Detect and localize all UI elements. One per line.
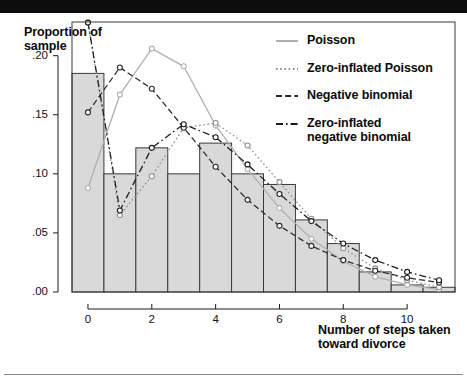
series-marker bbox=[373, 258, 378, 263]
series-marker bbox=[85, 20, 90, 25]
series-marker bbox=[149, 145, 154, 150]
chart-legend: PoissonZero-inflated PoissonNegative bin… bbox=[276, 33, 466, 157]
histogram-bar bbox=[104, 174, 136, 292]
series-marker bbox=[213, 121, 218, 126]
series-marker bbox=[405, 275, 410, 280]
bottom-divider bbox=[4, 374, 463, 375]
legend-line-swatch bbox=[276, 89, 298, 103]
series-marker bbox=[309, 236, 314, 241]
figure-panel: Proportion of sample Number of steps tak… bbox=[0, 13, 467, 374]
x-tick-label: 10 bbox=[397, 313, 417, 325]
series-marker bbox=[277, 206, 282, 211]
histogram-bar bbox=[72, 73, 104, 292]
legend-item-label: Negative binomial bbox=[307, 88, 412, 103]
legend-item: Zero-inflated Poisson bbox=[276, 61, 466, 76]
y-tick-label: .05 bbox=[22, 226, 48, 238]
histogram-bar bbox=[232, 174, 264, 292]
series-marker bbox=[245, 162, 250, 167]
x-tick-label: 4 bbox=[206, 313, 226, 325]
series-marker bbox=[149, 86, 154, 91]
legend-item-label: Zero-inflated Poisson bbox=[307, 61, 433, 76]
legend-line-swatch bbox=[276, 34, 298, 48]
series-marker bbox=[277, 191, 282, 196]
x-tick-label: 2 bbox=[142, 313, 162, 325]
legend-line-swatch bbox=[276, 117, 298, 131]
series-marker bbox=[341, 241, 346, 246]
series-marker bbox=[373, 268, 378, 273]
series-marker bbox=[213, 164, 218, 169]
series-marker bbox=[85, 110, 90, 115]
legend-item: Poisson bbox=[276, 33, 466, 48]
series-marker bbox=[437, 278, 442, 283]
series-marker bbox=[117, 208, 122, 213]
top-black-banner bbox=[0, 0, 467, 13]
y-tick-label: .10 bbox=[22, 167, 48, 179]
series-marker bbox=[277, 223, 282, 228]
histogram-bar bbox=[295, 220, 327, 292]
series-marker bbox=[341, 258, 346, 263]
series-marker bbox=[149, 174, 154, 179]
legend-item-label: Zero-inflated negative binomial bbox=[307, 116, 411, 145]
y-tick-label: .20 bbox=[22, 49, 48, 61]
histogram-bar bbox=[264, 184, 296, 292]
series-marker bbox=[373, 274, 378, 279]
series-marker bbox=[405, 269, 410, 274]
legend-item: Negative binomial bbox=[276, 88, 466, 103]
series-marker bbox=[117, 92, 122, 97]
series-marker bbox=[213, 135, 218, 140]
histogram-bar bbox=[168, 174, 200, 292]
series-marker bbox=[181, 64, 186, 69]
series-marker bbox=[181, 122, 186, 127]
x-tick-label: 6 bbox=[269, 313, 289, 325]
y-tick-label: .00 bbox=[22, 285, 48, 297]
series-marker bbox=[309, 219, 314, 224]
x-tick-label: 0 bbox=[78, 313, 98, 325]
series-marker bbox=[245, 197, 250, 202]
legend-item: Zero-inflated negative binomial bbox=[276, 116, 466, 145]
series-marker bbox=[245, 143, 250, 148]
legend-line-swatch bbox=[276, 62, 298, 76]
series-marker bbox=[309, 243, 314, 248]
series-marker bbox=[117, 65, 122, 70]
series-marker bbox=[277, 180, 282, 185]
series-marker bbox=[85, 186, 90, 191]
y-tick-label: .15 bbox=[22, 108, 48, 120]
legend-item-label: Poisson bbox=[307, 33, 355, 48]
x-tick-label: 8 bbox=[333, 313, 353, 325]
series-marker bbox=[149, 46, 154, 51]
